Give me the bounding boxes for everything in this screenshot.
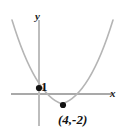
vertex-label: (4,-2) bbox=[58, 113, 87, 126]
x-axis-label: x bbox=[110, 88, 116, 99]
vertex-point bbox=[60, 102, 66, 108]
y-axis-label: y bbox=[35, 11, 40, 22]
parabola-curve bbox=[12, 20, 113, 104]
y-intercept-label: 1 bbox=[41, 80, 48, 93]
parabola-figure: y x 1 (4,-2) bbox=[0, 0, 126, 132]
